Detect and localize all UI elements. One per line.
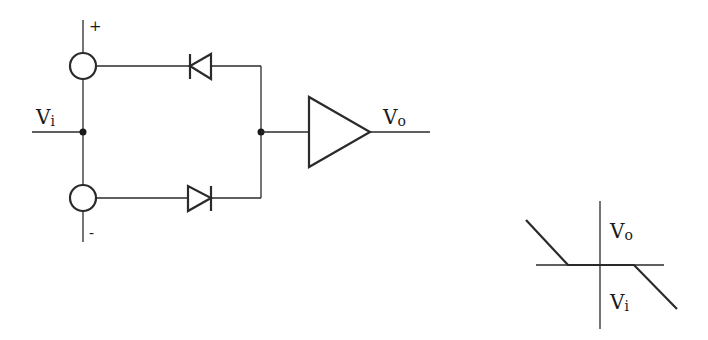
plus-sign: + — [89, 17, 102, 35]
transfer-characteristic-plot: Vo Vi — [526, 201, 677, 329]
output-label-vo: Vo — [382, 105, 406, 129]
top-voltage-source — [70, 53, 96, 79]
amplifier-triangle-icon — [309, 97, 370, 167]
plot-vi-label: Vi — [609, 290, 629, 314]
input-label-vi: Vi — [35, 105, 55, 129]
top-diode-icon — [190, 54, 211, 79]
plot-vo-label: Vo — [609, 219, 633, 243]
bottom-voltage-source — [70, 185, 96, 211]
bottom-diode-icon — [188, 186, 211, 211]
input-node-dot — [80, 129, 87, 136]
diode-bridge-circuit-diagram: + - Vi Vo Vo Vi — [0, 0, 708, 340]
minus-sign: - — [89, 224, 94, 242]
